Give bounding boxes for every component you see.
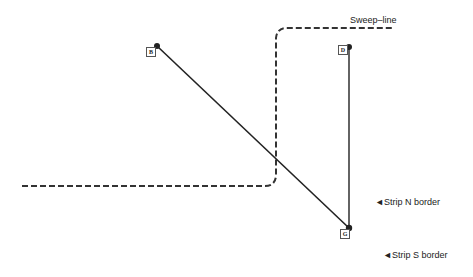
strip-s-border-label: ◄Strip S border xyxy=(383,250,447,260)
sweep-line-label: Sweep–line xyxy=(350,15,397,25)
point-d-label: D xyxy=(338,45,348,55)
point-g-label: G xyxy=(340,229,350,239)
point-b-label: B xyxy=(146,47,156,57)
strip-n-border-label: ◄Strip N border xyxy=(375,197,440,207)
segment-b-g xyxy=(157,46,349,228)
diagram-canvas xyxy=(0,0,473,277)
